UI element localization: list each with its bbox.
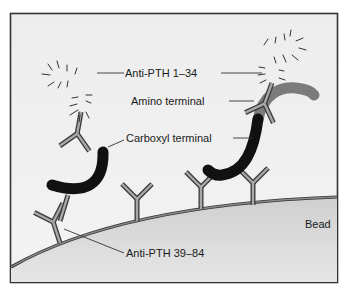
- label-amino-terminal: Amino terminal: [131, 95, 204, 107]
- pth-immunoassay-diagram: Anti-PTH 1–34 Amino terminal Carboxyl te…: [0, 0, 349, 292]
- label-anti-pth-1-34: Anti-PTH 1–34: [125, 67, 197, 79]
- label-bead: Bead: [305, 218, 331, 230]
- label-carboxyl-terminal: Carboxyl terminal: [126, 132, 212, 144]
- label-anti-pth-39-84: Anti-PTH 39–84: [126, 247, 204, 259]
